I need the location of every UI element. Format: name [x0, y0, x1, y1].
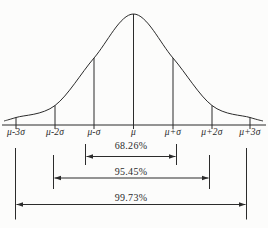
- axis-label-mu-plus-2sigma: μ+2σ: [201, 127, 222, 138]
- bracket-99: [16, 148, 247, 220]
- arrow-right-icon: [239, 202, 246, 206]
- axis-label-mu-minus-3sigma: μ-3σ: [7, 127, 25, 138]
- axis-label-mu-plus-sigma: μ+σ: [165, 127, 181, 138]
- axis-label-mu-minus-2sigma: μ-2σ: [46, 127, 64, 138]
- axis-label-mu: μ: [131, 127, 136, 138]
- arrow-left-icon: [87, 154, 94, 158]
- axis-label-mu-minus-sigma: μ-σ: [87, 127, 100, 138]
- percent-label-99: 99.73%: [115, 192, 148, 203]
- arrow-left-icon: [55, 176, 62, 180]
- arrow-left-icon: [17, 202, 24, 206]
- arrow-right-icon: [169, 154, 176, 158]
- arrow-right-icon: [202, 176, 209, 180]
- normal-distribution-figure: μ-3σ μ-2σ μ-σ μ μ+σ μ+2σ μ+3σ 68.26% 95.…: [0, 0, 268, 228]
- axis-label-mu-plus-3sigma: μ+3σ: [239, 127, 260, 138]
- percent-label-68: 68.26%: [115, 140, 148, 151]
- percent-label-95: 95.45%: [115, 166, 148, 177]
